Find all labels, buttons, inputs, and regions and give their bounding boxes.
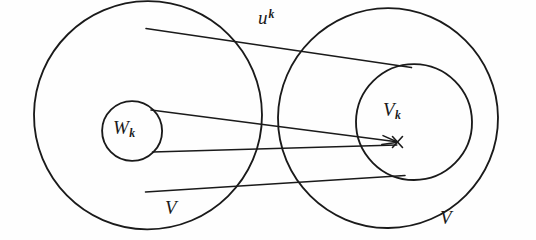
right-inner-circle-Vk [356,64,472,180]
upper-connector-line [146,29,412,68]
diagram-canvas [0,0,536,240]
label-V-source: V [165,198,177,217]
label-V-target: V [440,208,452,227]
inner-lower-connector-line [153,145,397,152]
label-Vk-base: V [383,99,395,120]
label-W-subscript: k [129,127,135,140]
middle-connector-line [151,110,397,142]
figure-container: uk Wk Vk V V [0,0,536,240]
left-set-group [34,1,262,229]
label-u-base: u [258,7,268,28]
label-u-exponent: k [268,8,274,21]
label-V-subscript-k: Vk [383,100,401,122]
label-u-superscript-k: uk [258,8,274,27]
label-W-base: W [113,117,129,138]
label-W-subscript-k: Wk [113,118,135,140]
left-outer-circle-V [34,1,262,229]
lower-connector-line [146,176,406,193]
label-Vk-subscript: k [395,109,401,122]
